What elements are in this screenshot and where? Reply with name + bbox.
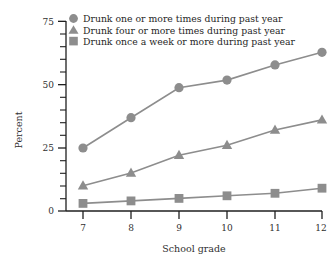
data-point-square xyxy=(271,189,280,198)
data-point-circle xyxy=(174,83,183,92)
square-marker-icon xyxy=(69,37,78,46)
legend-label-four-or-more: Drunk four or more times during past yea… xyxy=(83,25,285,36)
data-point-square xyxy=(175,194,184,203)
x-tick-label-7: 7 xyxy=(80,223,86,233)
data-point-square xyxy=(79,199,88,208)
data-point-circle xyxy=(126,113,135,122)
data-point-circle xyxy=(270,60,279,69)
x-tick-label-10: 10 xyxy=(221,223,233,233)
y-axis-title: Percent xyxy=(13,111,24,148)
y-tick-label-75: 75 xyxy=(43,17,55,27)
chart-legend: Drunk one or more times during past year… xyxy=(69,13,296,47)
legend-label-once-a-week: Drunk once a week or more during past ye… xyxy=(83,36,296,47)
legend-label-one-or-more: Drunk one or more times during past year xyxy=(83,13,283,24)
data-point-square xyxy=(127,197,136,206)
y-tick-label-50: 50 xyxy=(43,80,55,90)
chart-container: 75 50 25 0 7 8 9 10 11 12 Percent School… xyxy=(0,0,329,261)
data-point-square xyxy=(223,191,232,200)
x-tick-label-8: 8 xyxy=(128,223,134,233)
x-tick-label-9: 9 xyxy=(176,223,182,233)
x-tick-label-11: 11 xyxy=(269,223,280,233)
data-point-circle xyxy=(78,143,87,152)
x-tick-label-12: 12 xyxy=(315,223,326,233)
data-point-circle xyxy=(317,48,326,57)
data-point-circle xyxy=(222,76,231,85)
data-point-square xyxy=(318,184,327,193)
y-tick-label-0: 0 xyxy=(48,206,54,216)
x-axis-title: School grade xyxy=(162,243,226,254)
y-tick-label-25: 25 xyxy=(43,143,55,153)
alcohol-use-by-grade-line-chart: 75 50 25 0 7 8 9 10 11 12 Percent School… xyxy=(0,0,329,261)
circle-marker-icon xyxy=(69,14,78,23)
